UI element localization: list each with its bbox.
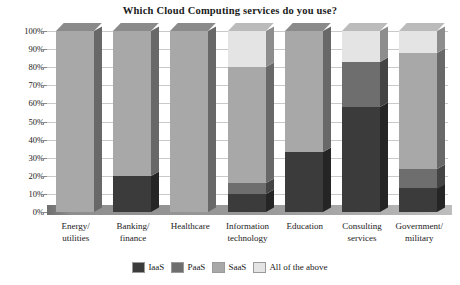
y-axis-tick-label: 20% [4, 172, 44, 181]
bar-segment-face [170, 31, 208, 212]
bar-segment[interactable] [113, 31, 151, 176]
legend-item[interactable]: IaaS [132, 262, 164, 273]
bar-segment[interactable] [228, 31, 266, 67]
bar-segment-face [113, 176, 151, 212]
x-axis-category-label: Government/military [385, 221, 454, 244]
bar-segment[interactable] [342, 31, 380, 62]
bar-segment[interactable] [399, 188, 437, 212]
y-axis-tick-label: 80% [4, 63, 44, 72]
y-axis-tick-label: 60% [4, 99, 44, 108]
chart-container: Which Cloud Computing services do you us… [0, 0, 460, 285]
bar-segment[interactable] [228, 194, 266, 212]
bar-top-face [56, 23, 102, 31]
bar-segment[interactable] [399, 31, 437, 53]
bar-segment[interactable] [56, 31, 94, 212]
bar-segment-face [342, 107, 380, 212]
chart-title: Which Cloud Computing services do you us… [0, 5, 460, 16]
legend-swatch [212, 262, 225, 273]
legend-swatch [132, 262, 145, 273]
bar-segment-side [94, 26, 102, 212]
legend-item[interactable]: SaaS [212, 262, 246, 273]
bar-segment[interactable] [399, 169, 437, 189]
bar-segment-face [399, 53, 437, 169]
bar-segment-face [113, 31, 151, 176]
y-axis-tick [41, 31, 47, 32]
y-axis-tick-label: 0% [4, 208, 44, 217]
bar-segment[interactable] [342, 107, 380, 212]
bar-segment-side [380, 26, 388, 61]
bar-segment[interactable] [399, 53, 437, 169]
bar-top-face [228, 23, 274, 31]
bar-top-face [342, 23, 388, 31]
bar-segment-side [323, 148, 331, 212]
y-axis-tick-label: 40% [4, 136, 44, 145]
bar-segment-side [208, 26, 216, 212]
y-axis-tick-label: 30% [4, 154, 44, 163]
bar-segment-face [56, 31, 94, 212]
bar-segment-face [228, 31, 266, 67]
y-axis-tick [41, 176, 47, 177]
legend-item[interactable]: All of the above [253, 262, 327, 273]
bar-segment[interactable] [285, 152, 323, 212]
bar-segment-side [380, 57, 388, 107]
legend-label: PaaS [187, 263, 205, 272]
y-axis-tick-label: 50% [4, 118, 44, 127]
y-axis-tick [41, 194, 47, 195]
y-axis-tick [41, 212, 47, 213]
bar-segment-face [399, 31, 437, 53]
chart-legend: IaaSPaaSSaaSAll of the above [0, 259, 460, 275]
bar-segment[interactable] [228, 67, 266, 183]
bar-segment-face [399, 169, 437, 189]
bar-column[interactable] [56, 31, 94, 212]
x-axis-category-line: finance [98, 233, 167, 245]
x-axis-category-line: military [385, 233, 454, 245]
bar-segment[interactable] [285, 31, 323, 152]
bar-segment[interactable] [113, 176, 151, 212]
bar-segment[interactable] [228, 183, 266, 194]
y-axis-tick-label: 90% [4, 45, 44, 54]
x-axis-category-line: Government/ [385, 221, 454, 233]
bar-segment-face [228, 183, 266, 194]
bar-segment[interactable] [170, 31, 208, 212]
bar-top-face [113, 23, 159, 31]
bar-segment-side [437, 48, 445, 168]
bar-segment-face [285, 152, 323, 212]
legend-swatch [253, 262, 266, 273]
bar-column[interactable] [285, 31, 323, 212]
bar-column[interactable] [113, 31, 151, 212]
legend-swatch [171, 262, 184, 273]
bar-segment-face [342, 62, 380, 107]
y-axis-tick [41, 49, 47, 50]
y-axis-tick [41, 67, 47, 68]
y-axis-tick [41, 140, 47, 141]
bar-segment-face [228, 67, 266, 183]
bar-column[interactable] [228, 31, 266, 212]
bar-segment-side [266, 26, 274, 67]
legend-label: All of the above [269, 263, 327, 272]
bar-segment-face [399, 188, 437, 212]
y-axis-tick-label: 70% [4, 81, 44, 90]
bar-segment-side [266, 63, 274, 183]
legend-label: IaaS [148, 263, 164, 272]
y-axis-tick-label: 100% [4, 27, 44, 36]
bar-segment-face [285, 31, 323, 152]
bar-top-face [285, 23, 331, 31]
bar-segment-side [380, 102, 388, 212]
bar-top-face [170, 23, 216, 31]
y-axis-tick [41, 103, 47, 104]
bar-segment-side [151, 171, 159, 212]
legend-item[interactable]: PaaS [171, 262, 205, 273]
x-axis-labels: Energy/utilitiesBanking/financeHealthcar… [47, 221, 452, 253]
legend-label: SaaS [228, 263, 246, 272]
bar-segment-side [151, 26, 159, 175]
x-axis-category-line: technology [213, 233, 282, 245]
bar-segment-face [342, 31, 380, 62]
bar-segment[interactable] [342, 62, 380, 107]
y-axis-tick [41, 122, 47, 123]
bar-column[interactable] [170, 31, 208, 212]
y-axis-tick [41, 158, 47, 159]
bar-segment-face [228, 194, 266, 212]
bar-column[interactable] [399, 31, 437, 212]
bar-column[interactable] [342, 31, 380, 212]
y-axis-tick-label: 10% [4, 190, 44, 199]
